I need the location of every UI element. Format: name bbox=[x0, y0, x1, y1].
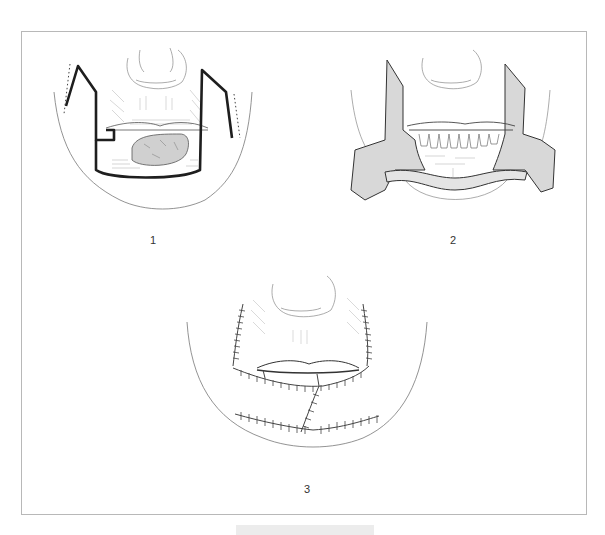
panel-2-label: 2 bbox=[443, 234, 463, 246]
panel-1-illustration bbox=[40, 30, 280, 230]
skin-hatching bbox=[110, 90, 202, 124]
chin-mucosa-rim bbox=[385, 170, 527, 190]
suture-line-left bbox=[233, 304, 245, 366]
panel-3-illustration bbox=[183, 270, 433, 470]
panel-1-label: 1 bbox=[143, 234, 163, 246]
skin-hatching bbox=[251, 298, 361, 344]
nose bbox=[127, 48, 186, 89]
suture-line-vertical bbox=[301, 386, 319, 432]
tumor bbox=[132, 134, 188, 165]
lower-teeth bbox=[419, 134, 499, 148]
nose bbox=[422, 50, 481, 89]
suture-line-lower-lip bbox=[233, 366, 369, 392]
lips bbox=[407, 122, 515, 130]
panel-3-label: 3 bbox=[297, 483, 317, 495]
figure-caption-truncated bbox=[236, 525, 374, 535]
suture-line-right bbox=[361, 304, 372, 366]
panel-2-illustration bbox=[345, 30, 565, 230]
upper-lip bbox=[106, 123, 208, 131]
dotted-flap-guide bbox=[64, 64, 240, 138]
nose bbox=[272, 276, 335, 317]
lips bbox=[257, 361, 359, 373]
